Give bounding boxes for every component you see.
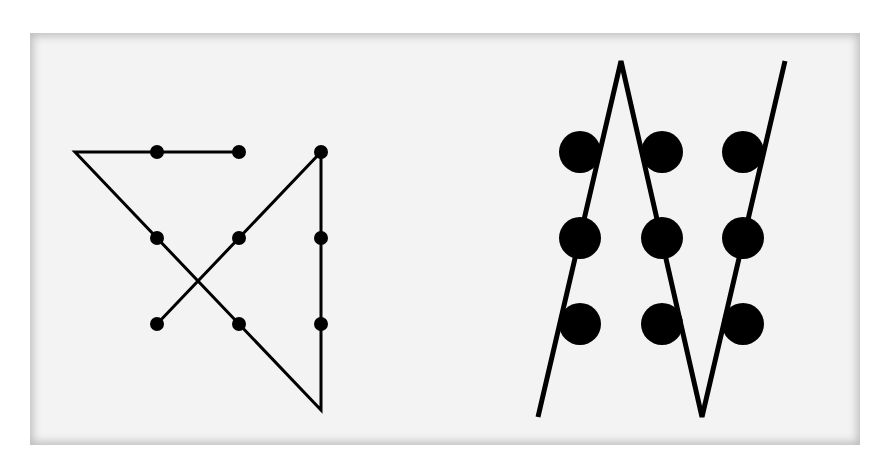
left-figure-dot: [232, 317, 246, 331]
left-figure-dot: [232, 145, 246, 159]
left-figure-dot: [150, 317, 164, 331]
right-figure-dot: [722, 303, 764, 345]
left-figure-dot: [150, 145, 164, 159]
left-figure-dot: [314, 317, 328, 331]
right-figure: [538, 61, 785, 417]
right-figure-dot: [722, 131, 764, 173]
right-figure-dot: [559, 217, 601, 259]
left-figure-dot: [232, 231, 246, 245]
right-figure-dot: [559, 131, 601, 173]
left-figure-dot: [314, 231, 328, 245]
right-figure-dot: [641, 131, 683, 173]
right-figure-dot: [722, 217, 764, 259]
right-figure-dot: [641, 303, 683, 345]
left-figure-path: [75, 152, 321, 410]
left-figure: [75, 145, 328, 410]
left-figure-dot: [314, 145, 328, 159]
right-figure-dot: [641, 217, 683, 259]
right-figure-dot: [559, 303, 601, 345]
left-figure-dot: [150, 231, 164, 245]
nine-dots-diagram: [0, 0, 888, 475]
